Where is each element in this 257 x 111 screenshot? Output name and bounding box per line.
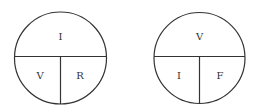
bottom-right-label: F: [217, 70, 224, 81]
bottom-right-label: R: [76, 70, 84, 81]
top-label: I: [59, 31, 63, 42]
top-label: V: [195, 31, 204, 42]
bottom-left-label: V: [35, 70, 44, 81]
diagram-canvas: I V R V I F: [0, 0, 257, 111]
bottom-left-label: I: [177, 70, 181, 81]
circle-diagram-right: V I F: [154, 13, 245, 105]
circle-diagram-left: I V R: [15, 12, 107, 104]
